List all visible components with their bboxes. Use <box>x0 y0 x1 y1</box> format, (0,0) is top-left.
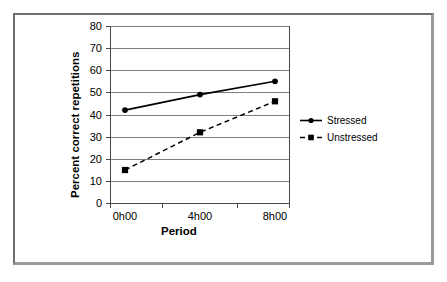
legend-label-stressed: Stressed <box>327 116 366 126</box>
x-tick-label-8h00: 8h00 <box>249 211 301 222</box>
legend-marks <box>300 118 322 140</box>
data-point-stressed-8h00 <box>272 78 278 84</box>
y-tick-marks <box>106 27 110 204</box>
legend-marker-unstressed <box>308 135 314 141</box>
y-tick-label-80: 80 <box>76 21 102 32</box>
y-axis-title: Percent correct repetitions <box>70 52 82 198</box>
plot-canvas <box>0 0 447 282</box>
x-tick-label-0h00: 0h00 <box>99 211 151 222</box>
legend-label-unstressed: Unstressed <box>327 133 378 143</box>
data-point-unstressed-8h00 <box>272 98 278 104</box>
plot-area-background <box>110 26 290 203</box>
legend-marker-stressed <box>308 118 313 123</box>
y-tick-label-0: 0 <box>76 198 102 209</box>
data-point-stressed-4h00 <box>197 92 203 98</box>
data-point-stressed-0h00 <box>122 107 128 113</box>
data-point-unstressed-4h00 <box>197 129 203 135</box>
x-tick-label-4h00: 4h00 <box>174 211 226 222</box>
chart-figure: 80 70 60 50 40 30 20 10 0 0h00 4h00 8h00… <box>0 0 447 282</box>
data-point-unstressed-0h00 <box>122 167 128 173</box>
x-axis-title: Period <box>161 226 197 238</box>
